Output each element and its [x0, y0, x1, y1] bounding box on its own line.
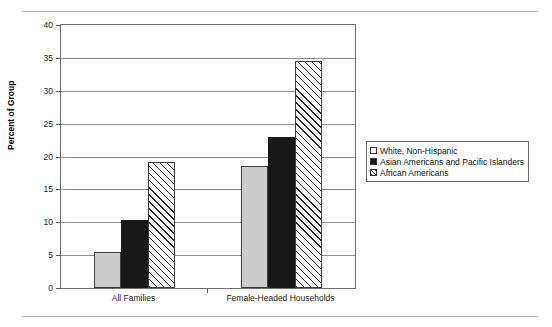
- bar: [268, 137, 295, 288]
- legend-swatch-african-americans: [370, 169, 377, 176]
- bottom-divider-rule: [22, 316, 538, 317]
- bar: [148, 162, 175, 288]
- bars-group: [61, 25, 355, 288]
- chart-legend: White, Non-Hispanic Asian Americans and …: [366, 141, 529, 182]
- bar: [94, 252, 121, 288]
- y-axis-tick: [56, 288, 61, 289]
- legend-swatch-asian-americans-pacific-islanders: [370, 158, 377, 165]
- legend-item: Asian Americans and Pacific Islanders: [370, 156, 524, 167]
- bar: [121, 220, 148, 288]
- y-axis-tick-label: 15: [44, 184, 53, 194]
- x-axis-tick: [207, 289, 208, 293]
- legend-label: White, Non-Hispanic: [380, 146, 457, 156]
- y-axis-tick-label: 40: [44, 20, 53, 30]
- top-divider-rule: [22, 11, 538, 12]
- y-axis-tick-label: 20: [44, 152, 53, 162]
- y-axis-title: Percent of Group: [6, 81, 16, 150]
- bar: [295, 61, 322, 288]
- legend-item: White, Non-Hispanic: [370, 145, 524, 156]
- y-axis-tick-label: 25: [44, 119, 53, 129]
- legend-swatch-white-non-hispanic: [370, 147, 377, 154]
- legend-label: African Americans: [380, 168, 449, 178]
- plot-area: 0510152025303540: [60, 24, 356, 289]
- x-axis-category-label: Female-Headed Households: [226, 293, 334, 303]
- y-axis-tick-label: 0: [48, 283, 53, 293]
- legend-item: African Americans: [370, 167, 524, 178]
- bar: [241, 166, 268, 288]
- y-axis-tick-label: 10: [44, 217, 53, 227]
- y-axis-tick-label: 35: [44, 53, 53, 63]
- legend-label: Asian Americans and Pacific Islanders: [380, 157, 524, 167]
- y-axis-tick-label: 5: [48, 250, 53, 260]
- y-axis-tick-label: 30: [44, 86, 53, 96]
- x-axis-category-label: All Families: [112, 293, 155, 303]
